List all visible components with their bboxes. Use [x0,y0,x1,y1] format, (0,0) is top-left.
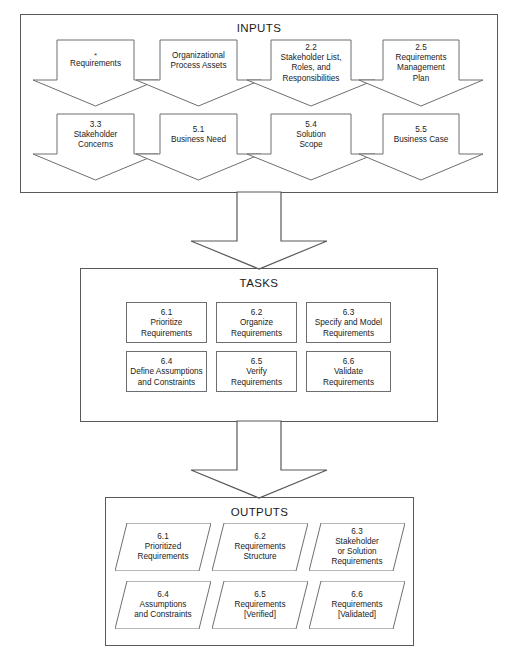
input-shape-solution-scope[interactable]: 5.4SolutionScope [247,114,375,180]
shape-line: Validate [307,367,390,377]
output-shape-requirements-verified[interactable]: 6.5Requirements[Verified] [212,581,308,629]
shape-line: Organize [217,318,296,328]
shape-label: 6.3Specify and ModelRequirements [307,308,390,339]
input-shape-requirements-management-plan[interactable]: 2.5RequirementsManagementPlan [359,40,483,106]
shape-number: 6.5 [217,357,296,367]
task-box-specify-and-model-requirements[interactable]: 6.3Specify and ModelRequirements [306,302,391,343]
task-box-define-assumptions-and-constraints[interactable]: 6.4Define Assumptionsand Constraints [126,351,207,392]
shape-label: 6.5VerifyRequirements [217,357,296,388]
connector-arrow-tasks-to-outputs [191,421,327,498]
shape-line: Verify [217,367,296,377]
input-shape-business-case[interactable]: 5.5Business Case [359,114,483,180]
output-shape-prioritized-requirements[interactable]: 6.1PrioritizedRequirements [115,523,211,571]
shape-line: Requirements [127,329,206,339]
shape-line: Specify and Model [307,318,390,328]
shape-line: Requirements [217,378,296,388]
shape-line: Define Assumptions [127,367,206,377]
shape-line: Prioritize [127,318,206,328]
task-box-organize-requirements[interactable]: 6.2OrganizeRequirements [216,302,297,343]
task-box-validate-requirements[interactable]: 6.6ValidateRequirements [306,351,391,392]
shape-number: 6.1 [127,308,206,318]
shape-number: 6.3 [307,308,390,318]
shape-line: Requirements [307,329,390,339]
section-title-tasks: TASKS [81,277,437,289]
section-title-outputs: OUTPUTS [106,506,413,518]
shape-number: 6.4 [127,357,206,367]
shape-number: 6.2 [217,308,296,318]
connector-arrow-inputs-to-tasks [191,192,327,269]
input-shape-business-need[interactable]: 5.1Business Need [136,114,261,180]
shape-line: Requirements [307,378,390,388]
shape-number: 6.6 [307,357,390,367]
input-shape-stakeholder-list-roles-responsibilities[interactable]: 2.2Stakeholder List,Roles, andResponsibi… [247,40,375,106]
section-panel-tasks: TASKS [80,268,438,422]
input-shape-organizational-process-assets[interactable]: OrganizationalProcess Assets [136,40,261,106]
shape-line: and Constraints [127,378,206,388]
shape-label: 6.1PrioritizeRequirements [127,308,206,339]
output-shape-requirements-structure[interactable]: 6.2RequirementsStructure [212,523,308,571]
output-shape-requirements-validated[interactable]: 6.6Requirements[Validated] [309,581,405,629]
shape-label: 6.4Define Assumptionsand Constraints [127,357,206,388]
shape-line: Requirements [217,329,296,339]
output-shape-assumptions-and-constraints[interactable]: 6.4Assumptionsand Constraints [115,581,211,629]
diagram-canvas: INPUTS *Requirements OrganizationalProce… [0,0,516,667]
task-box-verify-requirements[interactable]: 6.5VerifyRequirements [216,351,297,392]
shape-label: 6.6ValidateRequirements [307,357,390,388]
section-title-inputs: INPUTS [21,22,497,34]
output-shape-stakeholder-or-solution-requirements[interactable]: 6.3Stakeholderor SolutionRequirements [309,523,405,571]
shape-label: 6.2OrganizeRequirements [217,308,296,339]
task-box-prioritize-requirements[interactable]: 6.1PrioritizeRequirements [126,302,207,343]
